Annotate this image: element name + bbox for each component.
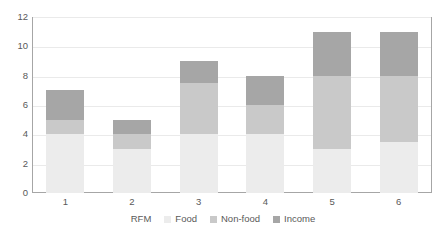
bar-segment-food-4[interactable]: [246, 134, 284, 193]
bar-slot-6: [365, 17, 432, 193]
stacked-bar-chart: 024681012 123456 RFM FoodNon-foodIncome: [0, 0, 446, 235]
y-tick-label-2: 2: [0, 159, 28, 169]
legend-swatch-food: [164, 216, 171, 223]
legend-item-income[interactable]: Income: [273, 214, 315, 224]
x-tick-label-1: 1: [32, 194, 99, 210]
bar-segment-non-food-2[interactable]: [113, 134, 151, 149]
bar-segment-income-2[interactable]: [113, 120, 151, 135]
legend-label-non-food: Non-food: [221, 214, 260, 224]
y-tick-label-8: 8: [0, 71, 28, 81]
x-tick-label-2: 2: [99, 194, 166, 210]
bar-segment-non-food-1[interactable]: [46, 120, 84, 135]
x-tick-label-4: 4: [232, 194, 299, 210]
legend-swatch-income: [273, 216, 280, 223]
bar-segment-income-6[interactable]: [380, 32, 418, 76]
bar-segment-income-3[interactable]: [180, 61, 218, 83]
bar-series-container: [32, 17, 432, 193]
y-tick-label-4: 4: [0, 130, 28, 140]
bar-segment-food-3[interactable]: [180, 134, 218, 193]
y-tick-label-10: 10: [0, 42, 28, 52]
y-tick-label-6: 6: [0, 100, 28, 110]
bar-stack-5[interactable]: [313, 32, 351, 193]
legend-item-non-food[interactable]: Non-food: [210, 214, 260, 224]
bar-slot-2: [99, 17, 166, 193]
bar-segment-food-2[interactable]: [113, 149, 151, 193]
bar-segment-income-4[interactable]: [246, 76, 284, 105]
x-axis-title: RFM: [131, 214, 152, 224]
x-tick-label-5: 5: [299, 194, 366, 210]
bar-segment-food-5[interactable]: [313, 149, 351, 193]
legend-swatch-non-food: [210, 216, 217, 223]
legend-label-income: Income: [284, 214, 315, 224]
legend: RFM FoodNon-foodIncome: [0, 211, 446, 227]
bar-slot-1: [32, 17, 99, 193]
bar-stack-3[interactable]: [180, 61, 218, 193]
bar-stack-1[interactable]: [46, 90, 84, 193]
bar-slot-5: [299, 17, 366, 193]
bar-stack-2[interactable]: [113, 120, 151, 193]
legend-item-food[interactable]: Food: [164, 214, 197, 224]
legend-label-food: Food: [175, 214, 197, 224]
y-tick-label-0: 0: [0, 188, 28, 198]
bar-segment-non-food-5[interactable]: [313, 76, 351, 149]
bar-segment-income-1[interactable]: [46, 90, 84, 119]
bar-slot-3: [165, 17, 232, 193]
bar-stack-6[interactable]: [380, 32, 418, 193]
x-axis: 123456: [32, 194, 432, 210]
x-tick-label-3: 3: [165, 194, 232, 210]
bar-slot-4: [232, 17, 299, 193]
x-tick-label-6: 6: [365, 194, 432, 210]
bar-segment-non-food-6[interactable]: [380, 76, 418, 142]
bar-stack-4[interactable]: [246, 76, 284, 193]
bar-segment-food-6[interactable]: [380, 142, 418, 193]
bar-segment-non-food-3[interactable]: [180, 83, 218, 134]
bar-segment-non-food-4[interactable]: [246, 105, 284, 134]
y-axis: 024681012: [0, 17, 28, 193]
y-tick-label-12: 12: [0, 12, 28, 22]
bar-segment-food-1[interactable]: [46, 134, 84, 193]
bar-segment-income-5[interactable]: [313, 32, 351, 76]
